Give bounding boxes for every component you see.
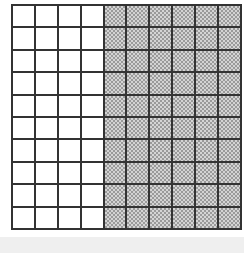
shaded-cell (149, 117, 172, 139)
empty-cell (12, 139, 35, 161)
shaded-cell (172, 95, 195, 117)
shaded-cell (218, 95, 241, 117)
shaded-cell (195, 5, 218, 27)
shaded-cell (172, 117, 195, 139)
shaded-cell (104, 27, 127, 49)
empty-cell (12, 72, 35, 94)
shaded-cell (195, 162, 218, 184)
empty-cell (12, 162, 35, 184)
shaded-cell (126, 5, 149, 27)
shaded-cell (104, 184, 127, 206)
shaded-cell (195, 50, 218, 72)
shaded-cell (195, 207, 218, 229)
shaded-cell (218, 184, 241, 206)
shaded-cell (126, 117, 149, 139)
shaded-cell (149, 162, 172, 184)
shaded-cell (218, 72, 241, 94)
empty-cell (12, 5, 35, 27)
shaded-cell (195, 72, 218, 94)
shaded-cell (218, 27, 241, 49)
empty-cell (12, 207, 35, 229)
shaded-cell (104, 117, 127, 139)
shaded-cell (104, 5, 127, 27)
empty-cell (35, 117, 58, 139)
empty-cell (35, 207, 58, 229)
empty-cell (12, 184, 35, 206)
empty-cell (58, 117, 81, 139)
empty-cell (58, 139, 81, 161)
shaded-cell (172, 207, 195, 229)
empty-cell (81, 50, 104, 72)
shaded-cell (149, 27, 172, 49)
shaded-cell (195, 95, 218, 117)
shaded-cell (149, 95, 172, 117)
shaded-cell (126, 72, 149, 94)
empty-cell (35, 72, 58, 94)
shaded-cell (126, 95, 149, 117)
bottom-strip (0, 237, 244, 253)
shaded-cell (172, 5, 195, 27)
shaded-cell (126, 139, 149, 161)
shaded-cell (149, 5, 172, 27)
empty-cell (81, 117, 104, 139)
empty-cell (58, 207, 81, 229)
shaded-cell (104, 162, 127, 184)
shaded-cell (195, 27, 218, 49)
empty-cell (35, 95, 58, 117)
empty-cell (81, 162, 104, 184)
shaded-cell (126, 162, 149, 184)
empty-cell (35, 27, 58, 49)
shaded-cell (172, 50, 195, 72)
shaded-cell (104, 95, 127, 117)
empty-cell (35, 50, 58, 72)
shaded-cell (195, 117, 218, 139)
shaded-cell (126, 184, 149, 206)
shaded-cell (172, 27, 195, 49)
empty-cell (58, 27, 81, 49)
shaded-cell (195, 184, 218, 206)
shaded-cell (218, 50, 241, 72)
shaded-cell (218, 207, 241, 229)
shaded-cell (218, 139, 241, 161)
shaded-cell (149, 184, 172, 206)
shaded-cell (172, 162, 195, 184)
empty-cell (58, 5, 81, 27)
shaded-cell (149, 72, 172, 94)
shaded-cell (172, 139, 195, 161)
empty-cell (35, 139, 58, 161)
empty-cell (81, 27, 104, 49)
shaded-cell (218, 117, 241, 139)
shaded-cell (172, 72, 195, 94)
empty-cell (12, 95, 35, 117)
empty-cell (12, 27, 35, 49)
empty-cell (81, 95, 104, 117)
empty-cell (58, 95, 81, 117)
empty-cell (12, 117, 35, 139)
shaded-cell (149, 207, 172, 229)
empty-cell (12, 50, 35, 72)
empty-cell (81, 72, 104, 94)
empty-cell (81, 184, 104, 206)
hundred-grid (11, 4, 242, 230)
shaded-cell (195, 139, 218, 161)
empty-cell (58, 72, 81, 94)
shaded-cell (126, 27, 149, 49)
shaded-cell (104, 139, 127, 161)
shaded-cell (172, 184, 195, 206)
shaded-cell (149, 50, 172, 72)
empty-cell (35, 184, 58, 206)
empty-cell (35, 162, 58, 184)
empty-cell (58, 50, 81, 72)
empty-cell (58, 184, 81, 206)
shaded-cell (218, 5, 241, 27)
shaded-cell (126, 207, 149, 229)
shaded-cell (104, 50, 127, 72)
shaded-cell (126, 50, 149, 72)
shaded-cell (149, 139, 172, 161)
empty-cell (35, 5, 58, 27)
shaded-cell (218, 162, 241, 184)
empty-cell (81, 139, 104, 161)
shaded-cell (104, 207, 127, 229)
empty-cell (81, 5, 104, 27)
empty-cell (58, 162, 81, 184)
